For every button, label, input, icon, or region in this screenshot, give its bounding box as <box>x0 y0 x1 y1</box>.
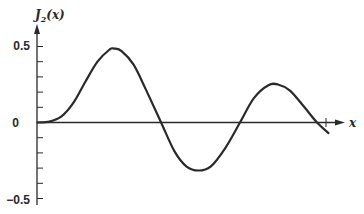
y-tick-label-neg-0.5: −0.5 <box>6 193 30 207</box>
y-tick-label-0: 0 <box>12 116 19 130</box>
y-axis-arrow-icon <box>34 24 40 34</box>
j2-curve <box>37 48 328 170</box>
bessel-j2-chart: 0.5 0 −0.5 J2(x) x <box>0 0 364 214</box>
x-axis-title: x <box>348 116 357 130</box>
y-tick-label-0.5: 0.5 <box>13 39 30 53</box>
x-axis-arrow-icon <box>335 120 345 126</box>
y-axis-title: J2(x) <box>33 8 65 24</box>
